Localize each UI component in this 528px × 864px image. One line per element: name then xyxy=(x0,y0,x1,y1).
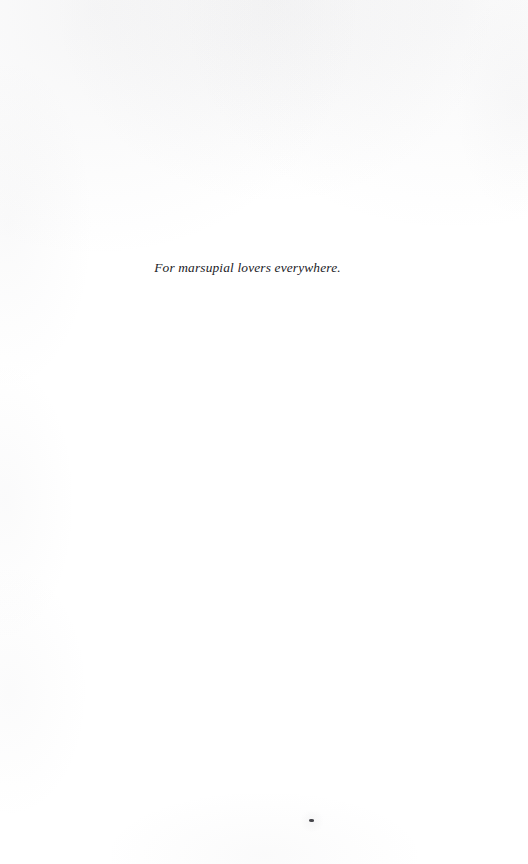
scan-speck-artifact xyxy=(309,819,314,822)
dedication-page: For marsupial lovers everywhere. xyxy=(0,0,528,864)
dedication-block: For marsupial lovers everywhere. xyxy=(0,258,495,277)
paper-texture xyxy=(0,0,528,864)
dedication-text: For marsupial lovers everywhere. xyxy=(154,259,341,277)
